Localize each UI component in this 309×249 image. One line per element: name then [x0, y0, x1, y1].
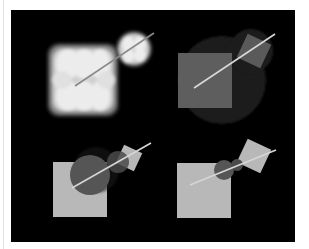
panel-top-left: [47, 31, 154, 117]
overlap-circle: [214, 160, 234, 180]
panel-top-right: [178, 29, 275, 124]
panel-bottom-right: [177, 139, 276, 218]
end-blob: [116, 31, 152, 67]
swept-shapes-figure: [0, 0, 309, 249]
panel-bottom-left: [53, 143, 151, 217]
overlap-circle: [70, 155, 110, 195]
